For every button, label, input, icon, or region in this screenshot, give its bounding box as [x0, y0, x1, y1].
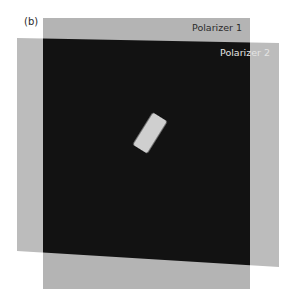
polarizer-figure [0, 0, 293, 304]
crossed-overlap-region [17, 38, 279, 267]
polarizer-2-label: Polarizer 2 [220, 47, 270, 58]
polarizer-1-label: Polarizer 1 [192, 22, 242, 33]
panel-label: (b) [24, 16, 38, 27]
